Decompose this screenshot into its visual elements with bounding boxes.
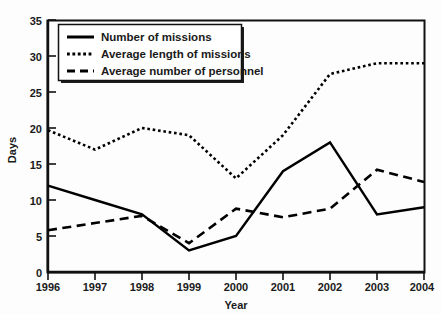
y-tick-label: 20 bbox=[30, 123, 42, 135]
legend-label: Number of missions bbox=[101, 31, 212, 43]
line-chart: 35 30 25 20 15 10 5 0 1996 1997 1998 19 bbox=[0, 0, 441, 315]
x-tick-label: 1998 bbox=[130, 281, 154, 293]
y-tick-label: 0 bbox=[36, 267, 42, 279]
x-axis-title: Year bbox=[224, 299, 248, 311]
y-tick-label: 35 bbox=[30, 15, 42, 27]
x-tick-label: 2001 bbox=[271, 281, 295, 293]
x-tick-label: 2003 bbox=[365, 281, 389, 293]
y-axis-title: Days bbox=[6, 137, 18, 163]
y-tick-label: 25 bbox=[30, 87, 42, 99]
chart-canvas: 35 30 25 20 15 10 5 0 1996 1997 1998 19 bbox=[0, 0, 441, 315]
y-tick-label: 30 bbox=[30, 51, 42, 63]
y-tick-label: 5 bbox=[36, 231, 42, 243]
x-tick-labels: 1996 1997 1998 1999 2000 2001 2002 2003 … bbox=[36, 281, 435, 293]
y-tick-labels: 35 30 25 20 15 10 5 0 bbox=[30, 15, 42, 279]
x-tick-label: 2002 bbox=[318, 281, 342, 293]
series-average-number-of-personnel bbox=[48, 170, 424, 243]
x-tick-label: 1997 bbox=[83, 281, 107, 293]
x-tick-label: 2004 bbox=[410, 281, 435, 293]
legend-label: Average number of personnel bbox=[101, 65, 264, 77]
legend-label: Average length of missions bbox=[101, 48, 251, 60]
x-tick-label: 1999 bbox=[177, 281, 201, 293]
y-tick-label: 10 bbox=[30, 195, 42, 207]
y-tick-label: 15 bbox=[30, 159, 42, 171]
x-tick-label: 2000 bbox=[224, 281, 248, 293]
series-number-of-missions bbox=[48, 142, 424, 250]
x-tick-label: 1996 bbox=[36, 281, 60, 293]
legend: Number of missions Average length of mis… bbox=[59, 25, 264, 84]
